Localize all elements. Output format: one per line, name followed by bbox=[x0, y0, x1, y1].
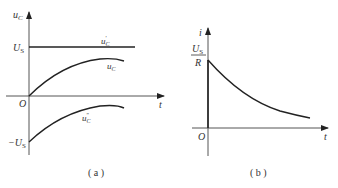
label-uc: uC bbox=[107, 61, 117, 72]
label-uc-prime: uC′ bbox=[101, 35, 111, 47]
figure-canvas: uC US −US O t uC′ uC uC″ ( a ) i US R O … bbox=[0, 0, 338, 188]
curve-i bbox=[208, 60, 310, 118]
x-label-b: t bbox=[324, 131, 327, 142]
origin-a: O bbox=[19, 98, 26, 109]
caption-a: ( a ) bbox=[88, 167, 104, 179]
caption-b: ( b ) bbox=[250, 167, 267, 179]
x-label-a: t bbox=[159, 99, 162, 110]
tick-us-a: US bbox=[13, 42, 24, 55]
curve-uc-double-prime bbox=[29, 105, 124, 142]
origin-b: O bbox=[198, 131, 205, 142]
y-label-a: uC bbox=[13, 9, 23, 22]
label-uc-double-prime: uC″ bbox=[82, 112, 92, 124]
panel-a: uC US −US O t uC′ uC uC″ ( a ) bbox=[6, 9, 164, 179]
tick-neg-us-a: −US bbox=[8, 137, 26, 150]
tick-num-b: US bbox=[192, 43, 203, 56]
tick-den-b: R bbox=[194, 57, 201, 68]
panel-b: i US R O t ( b ) bbox=[191, 27, 328, 179]
y-label-b: i bbox=[199, 27, 202, 38]
